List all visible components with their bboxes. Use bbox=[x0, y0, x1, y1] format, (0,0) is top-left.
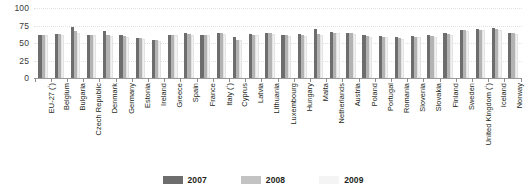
x-axis-label-cell: Czech Republic bbox=[84, 83, 100, 152]
bar-group bbox=[294, 8, 310, 78]
bar-2009 bbox=[434, 37, 437, 78]
x-axis-label-cell: Austria bbox=[343, 83, 359, 152]
legend-item-2008[interactable]: 2008 bbox=[241, 176, 285, 185]
x-axis-label-cell: Lithuania bbox=[262, 83, 278, 152]
bar-group bbox=[84, 8, 100, 78]
bar-2009 bbox=[401, 39, 404, 78]
bar-group bbox=[246, 8, 262, 78]
x-axis-label-cell: Finland bbox=[440, 83, 456, 152]
bar-2009 bbox=[207, 35, 210, 78]
bar-2009 bbox=[158, 41, 161, 78]
bar-2009 bbox=[223, 34, 226, 78]
bar-group bbox=[67, 8, 83, 78]
x-axis-label-cell: Estonia bbox=[132, 83, 148, 152]
bar-group bbox=[456, 8, 472, 78]
x-axis-tick bbox=[165, 78, 181, 82]
bar-2009 bbox=[466, 31, 469, 78]
bar-2009 bbox=[320, 35, 323, 78]
x-axis-tick bbox=[375, 78, 391, 82]
x-axis-label-cell: Slovenia bbox=[408, 83, 424, 152]
bar-2009 bbox=[255, 35, 258, 78]
legend-swatch-2008 bbox=[241, 176, 261, 184]
x-axis-tick bbox=[424, 78, 440, 82]
legend-label-2008: 2008 bbox=[266, 176, 285, 185]
bar-2009 bbox=[272, 34, 275, 78]
bar-group bbox=[100, 8, 116, 78]
bar-group bbox=[424, 8, 440, 78]
x-axis-label-cell: EU-27 (¹) bbox=[35, 83, 51, 152]
plot-area bbox=[34, 8, 522, 78]
legend-label-2007: 2007 bbox=[188, 176, 207, 185]
x-axis-label-cell: Iceland bbox=[489, 83, 505, 152]
x-axis-tick bbox=[472, 78, 488, 82]
bar-group bbox=[262, 8, 278, 78]
x-axis-label-cell: Portugal bbox=[375, 83, 391, 152]
x-axis-tick bbox=[343, 78, 359, 82]
bar-2009 bbox=[45, 35, 48, 78]
chart-legend: 200720082009 bbox=[0, 176, 526, 185]
legend-swatch-2007 bbox=[163, 176, 183, 184]
x-axis-tick bbox=[181, 78, 197, 82]
legend-item-2009[interactable]: 2009 bbox=[319, 176, 363, 185]
y-axis-tick-label: 100 bbox=[15, 4, 29, 13]
bar-group bbox=[278, 8, 294, 78]
bar-group bbox=[229, 8, 245, 78]
x-axis-label-cell: Spain bbox=[181, 83, 197, 152]
x-axis-label-cell: Denmark bbox=[100, 83, 116, 152]
bars-layer bbox=[34, 8, 522, 78]
x-axis-label-cell: Norway bbox=[505, 83, 521, 152]
x-axis-label-cell: Sweden bbox=[456, 83, 472, 152]
x-axis-tick bbox=[116, 78, 132, 82]
bar-chart: 0255075100 EU-27 (¹)BelgiumBulgariaCzech… bbox=[0, 0, 526, 189]
x-axis-label-cell: Ireland bbox=[148, 83, 164, 152]
x-axis-label-cell: France bbox=[197, 83, 213, 152]
y-axis-tick-label: 25 bbox=[19, 56, 29, 65]
x-axis-tick bbox=[391, 78, 407, 82]
x-axis-tick bbox=[327, 78, 343, 82]
x-axis-tick bbox=[408, 78, 424, 82]
bar-2009 bbox=[142, 39, 145, 78]
x-axis-tick bbox=[456, 78, 472, 82]
bar-2009 bbox=[77, 33, 80, 79]
x-axis-label-cell: Belgium bbox=[51, 83, 67, 152]
bar-2009 bbox=[417, 37, 420, 78]
legend-item-2007[interactable]: 2007 bbox=[163, 176, 207, 185]
bar-group bbox=[181, 8, 197, 78]
x-axis-label-cell: Luxembourg bbox=[278, 83, 294, 152]
legend-swatch-2009 bbox=[319, 176, 339, 184]
x-axis-label-cell: Greece bbox=[165, 83, 181, 152]
bar-2009 bbox=[336, 33, 339, 78]
bar-2009 bbox=[304, 36, 307, 78]
x-axis-tick bbox=[278, 78, 294, 82]
bar-2009 bbox=[126, 37, 129, 78]
bar-2009 bbox=[288, 36, 291, 78]
bar-group bbox=[440, 8, 456, 78]
x-axis-tick-row bbox=[34, 78, 522, 82]
x-axis-tick bbox=[489, 78, 505, 82]
bar-group bbox=[35, 8, 51, 78]
x-axis-label-cell: Cyprus bbox=[229, 83, 245, 152]
bar-2009 bbox=[385, 37, 388, 78]
bar-group bbox=[51, 8, 67, 78]
x-axis-tick bbox=[148, 78, 164, 82]
bar-group bbox=[165, 8, 181, 78]
x-axis-tick bbox=[213, 78, 229, 82]
bar-2009 bbox=[498, 30, 501, 78]
bar-2009 bbox=[174, 35, 177, 78]
x-axis-tick bbox=[229, 78, 245, 82]
y-axis-tick-label: 75 bbox=[19, 21, 29, 30]
bar-group bbox=[359, 8, 375, 78]
bar-2009 bbox=[450, 35, 453, 78]
x-axis-tick bbox=[100, 78, 116, 82]
y-axis-tick-label: 0 bbox=[24, 74, 29, 83]
x-axis-tick bbox=[262, 78, 278, 82]
bar-group bbox=[489, 8, 505, 78]
x-axis-tick bbox=[51, 78, 67, 82]
x-axis-label-cell: United Kingdom (¹) bbox=[472, 83, 488, 152]
y-axis-tick-label: 50 bbox=[19, 39, 29, 48]
bar-2009 bbox=[239, 40, 242, 78]
bar-2009 bbox=[110, 36, 113, 78]
bar-group bbox=[391, 8, 407, 78]
bar-2009 bbox=[191, 35, 194, 78]
bar-group bbox=[310, 8, 326, 78]
